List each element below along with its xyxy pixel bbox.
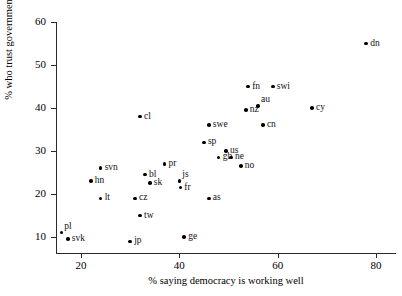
point-label-fr: fr [184, 182, 190, 192]
point-label-svn: svn [105, 162, 118, 172]
y-axis-line [56, 22, 57, 253]
y-tick-label-60: 60 [24, 16, 46, 27]
y-tick-10 [51, 237, 56, 238]
x-tick-label-80: 80 [361, 259, 391, 271]
y-tick-label-wrap: 30 [22, 145, 46, 156]
y-axis-title: % who trust government [2, 0, 16, 48]
point-label-pl: pl [64, 221, 71, 231]
point-marker-fn [246, 85, 250, 89]
x-tick-label-40: 40 [164, 259, 194, 271]
x-tick-40 [179, 253, 180, 258]
y-tick-label-wrap: 10 [22, 231, 46, 242]
y-tick-60 [51, 22, 56, 23]
point-label-ne: ne [235, 151, 244, 161]
point-marker-cn [261, 123, 265, 127]
point-marker-nz [244, 108, 248, 112]
point-label-au: au [261, 94, 270, 104]
point-label-js: js [182, 169, 188, 179]
point-label-cy: cy [316, 102, 325, 112]
y-tick-50 [51, 65, 56, 66]
point-marker-lt [99, 197, 103, 201]
x-tick-label-60: 60 [263, 259, 293, 271]
point-marker-gb [217, 156, 221, 160]
point-marker-hn [89, 179, 93, 183]
point-label-swe: swe [213, 119, 228, 129]
point-marker-fr [179, 186, 183, 190]
point-label-cl: cl [144, 111, 151, 121]
y-tick-label-wrap: 40 [22, 102, 46, 113]
point-marker-us [224, 149, 228, 153]
point-marker-svk [66, 237, 70, 241]
point-marker-no [239, 164, 243, 168]
point-marker-pl [60, 231, 64, 235]
point-label-ge: ge [188, 231, 197, 241]
point-marker-sp [202, 141, 206, 145]
x-tick-80 [376, 253, 377, 258]
x-axis-line [56, 253, 396, 254]
y-tick-label-10: 10 [24, 231, 46, 242]
point-label-lt: lt [105, 192, 110, 202]
point-marker-cy [310, 106, 314, 110]
point-label-tw: tw [144, 210, 154, 220]
point-marker-svn [99, 166, 103, 170]
point-marker-tw [138, 214, 142, 218]
point-marker-jp [128, 240, 132, 244]
y-tick-label-50: 50 [24, 59, 46, 70]
point-label-as: as [213, 192, 221, 202]
point-label-cz: cz [139, 192, 147, 202]
point-marker-bl [143, 173, 147, 177]
y-tick-label-wrap: 50 [22, 59, 46, 70]
point-label-no: no [245, 160, 255, 170]
y-axis-title-text: % who trust government [2, 0, 16, 138]
point-label-dn: dn [370, 38, 380, 48]
point-label-swi: swi [277, 81, 290, 91]
y-tick-label-40: 40 [24, 102, 46, 113]
y-tick-40 [51, 108, 56, 109]
x-tick-label-20: 20 [66, 259, 96, 271]
point-marker-swe [207, 123, 211, 127]
scatter-plot: 102030405060 20406080 plsvkhnsvnltjpcztw… [0, 0, 402, 296]
y-tick-label-wrap: 60 [22, 16, 46, 27]
point-label-fn: fn [252, 81, 260, 91]
x-axis-title: % saying democracy is working well [56, 275, 396, 287]
point-label-pr: pr [169, 158, 177, 168]
point-label-sp: sp [208, 136, 216, 146]
y-tick-label-20: 20 [24, 188, 46, 199]
y-tick-20 [51, 194, 56, 195]
x-tick-60 [278, 253, 279, 258]
point-marker-cl [138, 115, 142, 119]
point-label-cn: cn [267, 119, 276, 129]
point-marker-cz [133, 197, 137, 201]
point-marker-au [256, 104, 260, 108]
point-marker-swi [271, 85, 275, 89]
point-marker-sk [148, 181, 152, 185]
point-marker-as [207, 197, 211, 201]
point-marker-dn [364, 42, 368, 46]
y-tick-30 [51, 151, 56, 152]
point-label-jp: jp [134, 235, 141, 245]
y-tick-label-wrap: 20 [22, 188, 46, 199]
point-label-sk: sk [154, 177, 162, 187]
point-marker-js [178, 179, 182, 183]
point-marker-ge [182, 235, 186, 239]
point-label-hn: hn [95, 175, 105, 185]
x-tick-20 [81, 253, 82, 258]
y-tick-label-30: 30 [24, 145, 46, 156]
point-marker-ne [229, 156, 233, 160]
point-marker-pr [163, 162, 167, 166]
point-label-svk: svk [72, 233, 85, 243]
